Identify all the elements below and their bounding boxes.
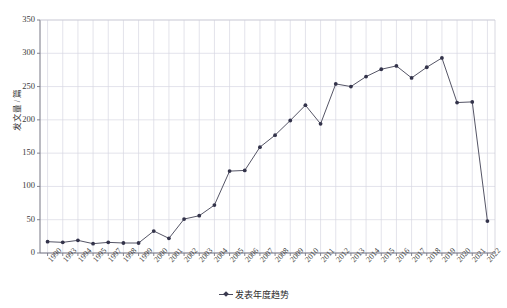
data-point xyxy=(455,101,459,105)
data-point xyxy=(152,229,156,233)
data-point xyxy=(76,238,80,242)
data-point xyxy=(288,119,292,123)
y-tick-label: 50 xyxy=(4,214,35,224)
data-point xyxy=(364,75,368,79)
data-point xyxy=(197,214,201,218)
data-point xyxy=(486,219,490,223)
chart-legend: 发表年度趋势 xyxy=(0,288,507,301)
data-point xyxy=(349,85,353,89)
series-line-publication-trend xyxy=(48,58,488,244)
data-point xyxy=(91,242,95,246)
data-point xyxy=(319,122,323,126)
tick-marks xyxy=(37,20,487,256)
y-tick-label: 150 xyxy=(4,147,35,157)
data-point xyxy=(137,241,141,245)
data-point xyxy=(122,241,126,245)
data-point xyxy=(243,169,247,173)
data-point xyxy=(213,203,217,207)
data-point xyxy=(273,133,277,137)
data-point xyxy=(46,240,50,244)
data-point xyxy=(334,82,338,86)
legend-marker-icon xyxy=(219,291,233,299)
legend-label: 发表年度趋势 xyxy=(235,288,289,301)
data-point xyxy=(61,240,65,244)
data-point xyxy=(440,56,444,60)
y-tick-label: 200 xyxy=(4,114,35,124)
y-tick-label: 250 xyxy=(4,81,35,91)
data-point xyxy=(410,76,414,80)
data-point xyxy=(395,64,399,68)
line-chart: 发文量 / 篇 050100150200250300350 1990199319… xyxy=(0,0,507,308)
data-point xyxy=(304,103,308,107)
y-tick-label: 0 xyxy=(4,247,35,257)
data-point xyxy=(106,240,110,244)
data-point xyxy=(258,145,262,149)
series-markers xyxy=(46,56,490,246)
y-tick-label: 300 xyxy=(4,47,35,57)
data-point xyxy=(167,236,171,240)
data-point xyxy=(425,65,429,69)
data-point xyxy=(379,67,383,71)
data-point xyxy=(228,169,232,173)
data-point xyxy=(470,100,474,104)
y-tick-label: 350 xyxy=(4,14,35,24)
data-point xyxy=(182,217,186,221)
gridlines xyxy=(40,20,495,253)
y-tick-label: 100 xyxy=(4,180,35,190)
